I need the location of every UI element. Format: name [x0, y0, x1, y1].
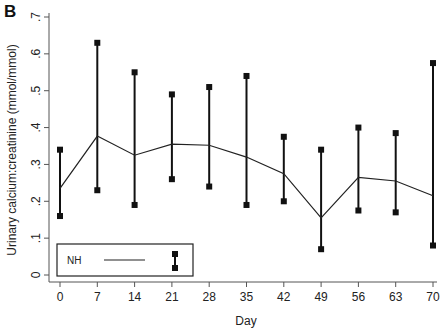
legend: NH — [57, 244, 193, 276]
range-upper-marker — [169, 91, 175, 97]
legend-range-lower — [172, 265, 178, 271]
x-tick-label: 7 — [94, 290, 101, 304]
range-lower-marker — [318, 246, 324, 252]
range-upper-marker — [281, 134, 287, 140]
range-lower-marker — [393, 209, 399, 215]
x-tick-label: 42 — [277, 290, 291, 304]
x-axis: 07142128354249566370 — [49, 282, 440, 304]
y-tick-label: .3 — [29, 159, 43, 169]
range-lower-marker — [94, 187, 100, 193]
x-tick-label: 28 — [203, 290, 217, 304]
range-upper-marker — [57, 147, 63, 153]
range-upper-marker — [355, 125, 361, 131]
range-upper-marker — [244, 73, 250, 79]
range-upper-marker — [430, 60, 436, 66]
y-tick-label: 0 — [29, 271, 43, 278]
range-upper-marker — [318, 147, 324, 153]
x-tick-label: 0 — [57, 290, 64, 304]
legend-range-upper — [172, 251, 178, 257]
range-lower-marker — [169, 176, 175, 182]
x-tick-label: 56 — [352, 290, 366, 304]
y-axis-title: Urinary calcium:creatinine (mmol/mmol) — [5, 44, 19, 255]
x-tick-label: 21 — [165, 290, 179, 304]
y-tick-label: .4 — [29, 122, 43, 132]
x-tick-label: 63 — [389, 290, 403, 304]
range-lower-marker — [57, 213, 63, 219]
range-lower-marker — [206, 184, 212, 190]
y-tick-label: .7 — [29, 12, 43, 22]
x-tick-label: 49 — [314, 290, 328, 304]
chart: 0.1.2.3.4.5.6.7 07142128354249566370 NH … — [0, 0, 445, 334]
range-lower-marker — [355, 208, 361, 214]
range-lower-marker — [430, 243, 436, 249]
range-upper-marker — [393, 130, 399, 136]
range-upper-marker — [132, 69, 138, 75]
y-tick-label: .5 — [29, 85, 43, 95]
x-tick-label: 70 — [426, 290, 440, 304]
x-tick-label: 14 — [128, 290, 142, 304]
y-axis: 0.1.2.3.4.5.6.7 — [29, 12, 49, 282]
y-tick-label: .6 — [29, 49, 43, 59]
y-tick-label: .2 — [29, 196, 43, 206]
x-tick-label: 35 — [240, 290, 254, 304]
range-upper-marker — [94, 40, 100, 46]
range-bars — [57, 40, 436, 252]
legend-label: NH — [67, 255, 81, 266]
range-lower-marker — [244, 202, 250, 208]
range-upper-marker — [206, 84, 212, 90]
range-lower-marker — [132, 202, 138, 208]
range-lower-marker — [281, 198, 287, 204]
x-axis-title: Day — [235, 314, 256, 328]
y-tick-label: .1 — [29, 233, 43, 243]
